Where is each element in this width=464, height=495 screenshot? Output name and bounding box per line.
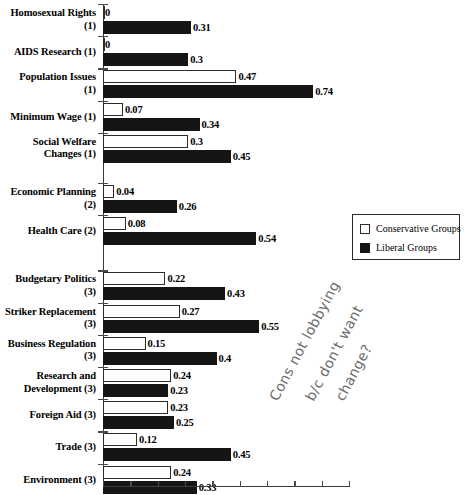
x-axis-tick (130, 481, 131, 487)
annotation-line-3: change? (332, 341, 375, 403)
category-label-line: Business Regulation (0, 338, 96, 351)
bar-value-conservative: 0.15 (148, 338, 166, 349)
bar-value-conservative: 0.04 (116, 186, 134, 197)
bar-value-liberal: 0.45 (233, 151, 251, 162)
x-axis-tick (212, 481, 213, 487)
bar-liberal (103, 416, 174, 429)
category-label: Health Care (2) (0, 225, 96, 238)
category-label-line: AIDS Research (1) (0, 46, 96, 59)
category-label-line: Economic Planning (0, 186, 96, 199)
bar-value-conservative: 0.23 (170, 402, 188, 413)
bar-conservative (103, 466, 171, 479)
bar-value-liberal: 0.25 (176, 417, 194, 428)
legend-swatch-liberal-icon (360, 243, 370, 253)
category-label: Social WelfareChanges (1) (0, 136, 96, 161)
annotation-line-2: b/c don't want (302, 303, 366, 404)
category-label-line: Environment (3) (0, 474, 96, 487)
bar-value-conservative: 0.24 (173, 370, 191, 381)
category-label-line: Foreign Aid (3) (0, 409, 96, 422)
legend-item-liberal: Liberal Groups (360, 242, 437, 253)
category-label-line: (1) (0, 84, 96, 97)
x-axis-tick (103, 481, 104, 487)
bar-liberal (103, 287, 225, 300)
category-label-line: Research and (0, 370, 96, 383)
bar-liberal (103, 85, 313, 98)
category-label: Homosexual Rights(1) (0, 7, 96, 32)
bar-conservative (103, 305, 180, 318)
bar-liberal (103, 232, 256, 245)
handwritten-annotation: Cons not lobbying b/c don't want change? (262, 278, 392, 418)
bar-value-conservative: 0.22 (167, 273, 185, 284)
bar-value-conservative: 0.47 (238, 71, 256, 82)
bar-value-conservative: 0.27 (182, 306, 200, 317)
bar-conservative (103, 433, 137, 446)
category-label-line: (3) (0, 318, 96, 331)
bar-chart: Conservative Groups Liberal Groups Cons … (0, 0, 464, 495)
legend-label-conservative: Conservative Groups (376, 223, 461, 234)
x-axis-line (103, 486, 349, 487)
category-label-line: Population Issues (0, 71, 96, 84)
category-label: Environment (3) (0, 474, 96, 487)
category-label: Economic Planning(2) (0, 186, 96, 211)
category-label-line: Health Care (2) (0, 225, 96, 238)
bar-conservative (103, 401, 168, 414)
bar-value-liberal: 0.74 (315, 86, 333, 97)
legend-swatch-conservative-icon (360, 224, 370, 234)
bar-value-liberal: 0.55 (261, 321, 279, 332)
category-label: Foreign Aid (3) (0, 409, 96, 422)
bar-conservative (103, 337, 146, 350)
bar-value-conservative: 0.08 (128, 218, 146, 229)
bar-liberal (103, 150, 231, 163)
annotation-line-1: Cons not lobbying (266, 278, 343, 403)
x-axis-tick (267, 481, 268, 487)
bar-conservative (103, 70, 236, 83)
bar-conservative (103, 272, 165, 285)
bar-value-conservative: 0 (105, 39, 110, 50)
bar-liberal (103, 200, 177, 213)
bar-value-liberal: 0.3 (190, 54, 203, 65)
bar-value-liberal: 0.23 (170, 385, 188, 396)
category-label: Business Regulation(3) (0, 338, 96, 363)
x-axis-tick (185, 481, 186, 487)
category-label-line: Social Welfare (0, 136, 96, 149)
category-label: Research andDevelopment (3) (0, 370, 96, 395)
category-label: Striker Replacement(3) (0, 306, 96, 331)
bar-value-liberal: 0.4 (219, 353, 232, 364)
category-label-line: Changes (1) (0, 148, 96, 161)
bar-liberal (103, 21, 191, 34)
bar-value-conservative: 0.3 (190, 136, 203, 147)
legend-label-liberal: Liberal Groups (376, 242, 437, 253)
bar-liberal (103, 53, 188, 66)
bar-value-liberal: 0.45 (233, 449, 251, 460)
category-label-line: Minimum Wage (1) (0, 111, 96, 124)
category-label-line: Development (3) (0, 383, 96, 396)
category-label-line: Trade (3) (0, 441, 96, 454)
x-axis-tick (322, 481, 323, 487)
category-label-line: Striker Replacement (0, 306, 96, 319)
category-label-line: Budgetary Politics (0, 273, 96, 286)
legend-item-conservative: Conservative Groups (360, 223, 461, 234)
bar-value-conservative: 0 (105, 7, 110, 18)
category-label-line: Homosexual Rights (0, 7, 96, 20)
bar-value-liberal: 0.34 (202, 119, 220, 130)
category-label: Minimum Wage (1) (0, 111, 96, 124)
bar-conservative (103, 103, 123, 116)
category-label-line: (1) (0, 20, 96, 33)
category-label-line: (2) (0, 199, 96, 212)
bar-conservative (103, 369, 171, 382)
bar-value-liberal: 0.31 (193, 22, 211, 33)
bar-liberal (103, 352, 217, 365)
category-label-line: (3) (0, 286, 96, 299)
category-label: Budgetary Politics(3) (0, 273, 96, 298)
bar-conservative (103, 217, 126, 230)
category-label: Trade (3) (0, 441, 96, 454)
category-label: Population Issues(1) (0, 71, 96, 96)
bar-conservative (103, 185, 114, 198)
bar-liberal (103, 384, 168, 397)
bar-value-liberal: 0.54 (258, 233, 276, 244)
x-axis-tick (294, 481, 295, 487)
bar-conservative (103, 135, 188, 148)
bar-value-conservative: 0.12 (139, 434, 157, 445)
bar-value-conservative: 0.24 (173, 467, 191, 478)
chart-legend: Conservative Groups Liberal Groups (352, 214, 460, 260)
